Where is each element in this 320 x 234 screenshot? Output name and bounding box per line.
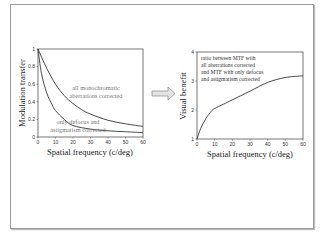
right-y-axis-label: Visual benefit — [178, 72, 188, 120]
x-tick-label: 40 — [265, 141, 271, 147]
y-tick-label: 1 — [32, 46, 35, 52]
x-tick-label: 50 — [283, 141, 289, 147]
y-tick-label: 0.6 — [28, 81, 35, 87]
y-tick-label: 4 — [191, 49, 194, 55]
y-tick-label: 0 — [32, 134, 35, 140]
x-tick-label: 10 — [212, 141, 218, 147]
x-tick-label: 60 — [140, 139, 146, 145]
annotation-all-corrected-line2: aberrations corrected — [70, 92, 124, 99]
y-tick-label: 0.4 — [28, 99, 35, 105]
x-tick-label: 20 — [70, 139, 76, 145]
x-tick-label: 10 — [53, 139, 59, 145]
annotation-defocus-line2: astigmatism corrected — [50, 126, 106, 133]
y-tick-label: 2 — [191, 107, 194, 113]
right-chart: 0102030405060 1234 Spatial frequency (c/… — [178, 49, 306, 159]
y-tick-label: 0.8 — [28, 63, 35, 69]
right-x-axis-label: Spatial frequency (c/deg) — [207, 149, 293, 159]
x-tick-label: 40 — [105, 139, 111, 145]
figure: 0102030405060 00.20.40.60.81 Spatial fre… — [0, 0, 320, 234]
x-tick-label: 20 — [230, 141, 236, 147]
annotation-ratio-line3: and MTF with only defocus — [201, 69, 263, 75]
x-tick-label: 30 — [88, 139, 94, 145]
annotation-all-corrected-line1: all monochromatic — [72, 84, 120, 91]
x-tick-label: 0 — [196, 141, 199, 147]
y-tick-label: 0.2 — [28, 116, 35, 122]
series-line-1 — [197, 76, 303, 139]
left-x-axis-label: Spatial frequency (c/deg) — [47, 147, 133, 157]
x-tick-label: 60 — [300, 141, 306, 147]
annotation-defocus-line1: only defocus and — [56, 118, 100, 125]
arrow-icon — [152, 87, 175, 100]
x-tick-label: 0 — [37, 139, 40, 145]
annotation-ratio-line2: all aberrations corrected — [201, 62, 255, 68]
y-tick-label: 3 — [191, 78, 194, 84]
left-y-axis-label: Modulation transfer — [17, 59, 27, 127]
x-tick-label: 50 — [123, 139, 129, 145]
left-chart: 0102030405060 00.20.40.60.81 Spatial fre… — [17, 46, 146, 157]
annotation-ratio-line1: ratio between MTF with — [201, 55, 256, 61]
y-tick-label: 1 — [191, 136, 194, 142]
x-tick-label: 30 — [247, 141, 253, 147]
annotation-ratio-line4: and astigmatism corrected — [201, 76, 260, 82]
